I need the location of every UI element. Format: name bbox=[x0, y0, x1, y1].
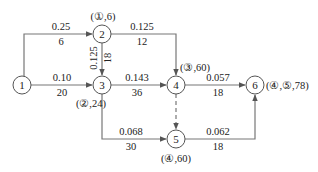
network-diagram: 1 2 3 4 5 6 (①,6) (②,24) (③,60) (④,60) (… bbox=[0, 0, 318, 172]
svg-text:5: 5 bbox=[173, 133, 179, 145]
node-3: 3 bbox=[93, 76, 111, 94]
edge-4-6-top: 0.057 bbox=[206, 72, 230, 83]
edge-2-3-bottom: 18 bbox=[102, 53, 113, 64]
svg-text:3: 3 bbox=[99, 79, 105, 91]
node-3-annotation: (②,24) bbox=[76, 98, 107, 110]
node-2-annotation: (①,6) bbox=[91, 11, 116, 23]
edge-5-6-top: 0.062 bbox=[206, 126, 230, 137]
edge-1-2-bottom: 6 bbox=[58, 36, 63, 47]
svg-text:4: 4 bbox=[173, 79, 179, 91]
edge-4-6-bottom: 18 bbox=[213, 87, 224, 98]
node-2: 2 bbox=[93, 25, 111, 43]
node-5: 5 bbox=[167, 130, 185, 148]
node-4: 4 bbox=[167, 76, 185, 94]
svg-text:6: 6 bbox=[252, 79, 258, 91]
node-6: 6 bbox=[246, 76, 264, 94]
edge-3-4-bottom: 36 bbox=[132, 87, 143, 98]
edge-1-3-top: 0.10 bbox=[53, 72, 71, 83]
node-5-annotation: (④,60) bbox=[161, 153, 192, 165]
edge-1-2-top: 0.25 bbox=[52, 21, 70, 32]
edge-3-5-top: 0.068 bbox=[119, 126, 143, 137]
node-6-annotation: (④,⑤,78) bbox=[266, 80, 309, 92]
svg-text:1: 1 bbox=[19, 79, 25, 91]
node-1: 1 bbox=[13, 76, 31, 94]
edge-2-3-top: 0.125 bbox=[88, 46, 99, 70]
edge-2-4-bottom: 12 bbox=[137, 36, 148, 47]
edge-2-4-top: 0.125 bbox=[130, 21, 154, 32]
edge-1-3-bottom: 20 bbox=[57, 87, 68, 98]
svg-text:2: 2 bbox=[99, 28, 105, 40]
edge-5-6-bottom: 18 bbox=[213, 141, 224, 152]
edge-3-4-top: 0.143 bbox=[125, 72, 149, 83]
edge-3-5-bottom: 30 bbox=[126, 141, 137, 152]
